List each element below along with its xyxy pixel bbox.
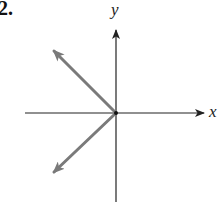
lower-left-vector xyxy=(54,113,116,172)
upper-left-vector xyxy=(54,51,116,113)
origin-point xyxy=(114,111,118,115)
coordinate-diagram xyxy=(0,0,223,204)
